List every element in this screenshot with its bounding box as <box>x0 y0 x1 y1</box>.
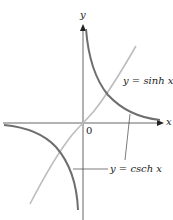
x-axis-label: x <box>166 117 172 127</box>
csch-label-var: x <box>156 163 162 174</box>
csch-curve-lower <box>4 125 78 210</box>
sinh-label: y = sinh x <box>123 76 173 86</box>
csch-label: y = csch x <box>110 164 162 174</box>
sinh-label-var: x <box>168 75 173 86</box>
sinh-label-prefix: y = sinh <box>123 75 168 86</box>
csch-label-prefix: y = csch <box>110 163 156 174</box>
x-axis-arrow-icon <box>157 120 164 126</box>
csch-leader-line-right <box>125 114 130 160</box>
plot-canvas <box>0 0 173 220</box>
origin-label: 0 <box>86 126 92 136</box>
hyperbolic-functions-figure: y x 0 y = sinh x y = csch x <box>0 0 173 220</box>
y-axis-label: y <box>80 10 86 20</box>
